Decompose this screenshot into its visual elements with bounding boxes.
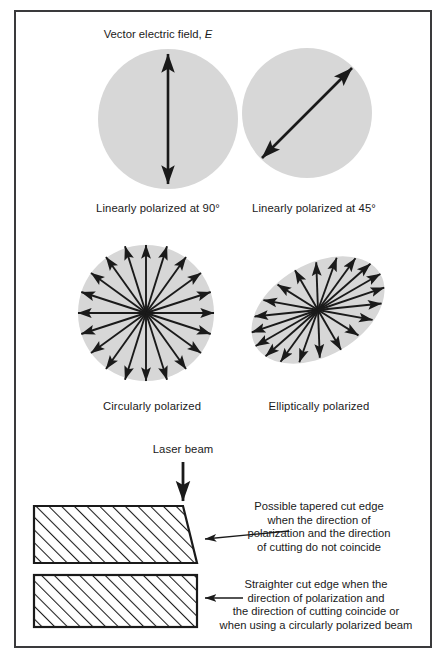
figure-root: Vector electric field, E Linearly polari… [0, 0, 446, 659]
caption-circular: Circularly polarized [62, 400, 242, 412]
tapered-cut-note-line-4: of cutting do not coincide [206, 541, 432, 555]
straight-cut-note-line-3: the direction of cutting coincide or [200, 605, 432, 619]
tapered-cut-note-line-1: Possible tapered cut edge [206, 500, 432, 514]
tapered-cut-note-line-2: when the direction of [206, 514, 432, 528]
caption-elliptical: Elliptically polarized [224, 400, 414, 412]
straight-cut-note-line-1: Straighter cut edge when the [200, 578, 432, 592]
laser-beam-label: Laser beam [120, 443, 246, 455]
vector-electric-field-label-text: Vector electric field, [104, 28, 205, 40]
vector-electric-field-symbol: E [205, 28, 213, 40]
straight-cut-note: Straighter cut edge when the direction o… [200, 578, 432, 632]
caption-linear-45: Linearly polarized at 45° [216, 202, 412, 214]
straight-cut-note-line-4: when using a circularly polarized beam [200, 619, 432, 633]
straight-cut-note-line-2: direction of polarization and [200, 592, 432, 606]
tapered-cut-note-line-3: polarization and the direction [206, 527, 432, 541]
tapered-cut-note: Possible tapered cut edge when the direc… [206, 500, 432, 554]
vector-electric-field-label: Vector electric field, E [68, 28, 248, 40]
